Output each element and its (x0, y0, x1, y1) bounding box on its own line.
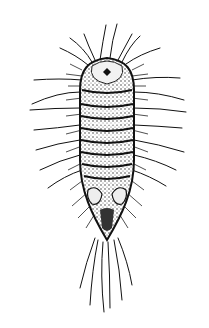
larva-drawing (0, 0, 209, 328)
larva-illustration (0, 0, 209, 328)
larva-body (80, 58, 134, 240)
